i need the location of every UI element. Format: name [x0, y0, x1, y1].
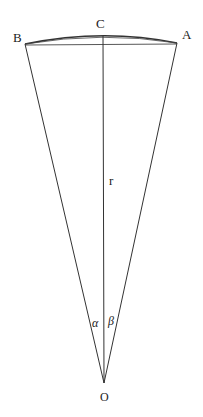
label-o: O	[100, 390, 109, 404]
label-r: r	[109, 173, 114, 188]
label-alpha: α	[92, 316, 99, 330]
arc-bca-inner	[25, 37, 177, 44]
sector-diagram: B A C r α β O	[0, 0, 203, 417]
radius-oc	[103, 36, 104, 383]
label-c: C	[96, 16, 105, 31]
chord-ba	[25, 44, 177, 45]
radius-oa	[104, 43, 177, 383]
label-beta: β	[107, 314, 114, 328]
radius-ob	[25, 44, 104, 383]
label-a: A	[182, 27, 192, 42]
label-b: B	[13, 30, 22, 45]
